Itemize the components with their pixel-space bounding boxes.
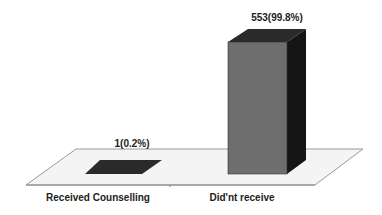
bar-chart-3d: 1(0.2%) 553(99.8%) Received Counselling … (0, 0, 382, 215)
data-label-received: 1(0.2%) (114, 138, 149, 149)
bar-didnt-receive (228, 29, 306, 174)
category-label-received: Received Counselling (46, 192, 150, 203)
data-label-didnt-receive: 553(99.8%) (251, 12, 303, 23)
bar-side-face (287, 29, 306, 174)
bar-front-face (228, 42, 287, 174)
category-label-didnt-receive: Did'nt receive (209, 192, 275, 203)
chart-floor (26, 149, 363, 185)
